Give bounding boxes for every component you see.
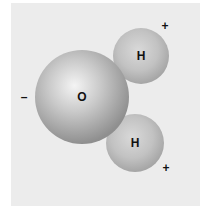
negative-charge-label: – (17, 91, 31, 103)
oxygen-label: O (72, 91, 92, 103)
hydrogen-bottom-label: H (125, 137, 145, 149)
hydrogen-top-label: H (131, 50, 151, 62)
water-molecule-diagram (0, 0, 208, 211)
positive-charge-top-label: + (158, 20, 172, 32)
positive-charge-bottom-label: + (159, 162, 173, 174)
